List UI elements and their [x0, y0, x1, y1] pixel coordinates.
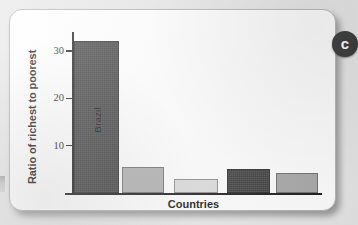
bar-2 — [122, 167, 164, 193]
bar-series: Brazil — [10, 10, 336, 193]
bar-1: Brazil — [74, 41, 119, 193]
bar-5 — [276, 173, 318, 193]
bar-3 — [174, 179, 218, 193]
page-edge-artifact — [0, 176, 5, 192]
bar-chart: Ratio of richest to poorest 102030 Brazi… — [10, 10, 336, 211]
x-axis-label: Countries — [65, 198, 322, 210]
figure-part-badge: c — [332, 31, 358, 57]
figure-card: Ratio of richest to poorest 102030 Brazi… — [9, 9, 336, 211]
scan-page-background: Ratio of richest to poorest 102030 Brazi… — [0, 0, 358, 225]
bar-label-1: Brazil — [91, 107, 102, 133]
x-axis-line — [65, 193, 322, 195]
bar-4 — [227, 169, 270, 193]
